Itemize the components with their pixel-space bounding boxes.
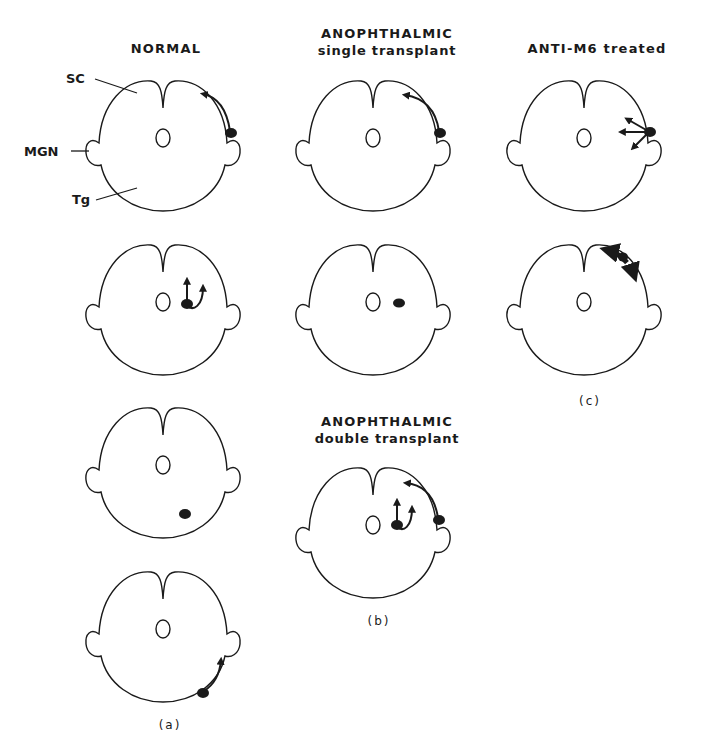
section-outline <box>86 572 240 702</box>
aqueduct-oval <box>156 129 170 147</box>
section-outline <box>296 81 450 211</box>
cell-dot <box>179 509 191 519</box>
aqueduct-oval <box>366 516 380 534</box>
label-sc: SC <box>66 72 85 85</box>
secondary-title-anophthalmic: ANOPHTHALMIC <box>321 415 453 428</box>
column-subtitle-single-transplant: single transplant <box>318 44 457 57</box>
diagram-canvas <box>0 0 705 744</box>
projection-arrow <box>633 133 648 148</box>
section-a3 <box>86 408 240 538</box>
anatomy-leaders <box>71 79 137 200</box>
aqueduct-oval <box>156 620 170 638</box>
section-outline <box>507 245 661 375</box>
column-title-anophthalmic: ANOPHTHALMIC <box>321 27 453 40</box>
section-b3 <box>296 468 450 598</box>
cell-dot <box>225 128 237 138</box>
section-outline <box>296 245 450 375</box>
projection-arrow <box>405 95 439 131</box>
aqueduct-oval <box>577 129 591 147</box>
panel-letter-c: (c) <box>579 395 601 407</box>
section-a1 <box>86 81 240 211</box>
tg-leader-line <box>96 188 137 200</box>
panel-letter-a: (a) <box>159 719 182 731</box>
section-c1 <box>507 81 661 211</box>
aqueduct-oval <box>156 293 170 311</box>
section-outline <box>86 245 240 375</box>
section-outline <box>86 408 240 538</box>
aqueduct-oval <box>156 456 170 474</box>
aqueduct-oval <box>366 129 380 147</box>
cell-dot <box>393 299 405 308</box>
section-outline <box>507 81 661 211</box>
section-outline <box>296 468 450 598</box>
panel-letter-b: (b) <box>368 615 391 627</box>
section-b2 <box>296 245 450 375</box>
section-c2 <box>507 245 661 375</box>
projection-arrow <box>406 483 438 518</box>
section-a4 <box>86 572 240 702</box>
aqueduct-oval <box>577 293 591 311</box>
label-mgn: MGN <box>24 145 59 158</box>
column-title-normal: NORMAL <box>131 42 201 55</box>
label-tg: Tg <box>72 193 90 206</box>
cell-dot <box>433 515 445 525</box>
projection-arrow <box>203 94 230 131</box>
cell-dot <box>434 128 446 138</box>
column-title-anti-m6: ANTI-M6 treated <box>527 42 666 55</box>
cell-dot <box>618 253 628 262</box>
section-b1 <box>296 81 450 211</box>
aqueduct-oval <box>366 293 380 311</box>
sc-leader-line <box>95 79 137 93</box>
secondary-subtitle-double-transplant: double transplant <box>315 432 460 445</box>
section-a2 <box>86 245 240 375</box>
